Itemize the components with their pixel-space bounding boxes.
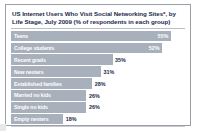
- bar-row: Empty nesters18%: [11, 114, 185, 125]
- bar-category-label: Teens: [11, 33, 28, 39]
- bar-value-label: 55%: [158, 33, 169, 39]
- bar-value-label: 18%: [66, 116, 77, 122]
- chart-card: US Internet Users Who Visit Social Netwo…: [5, 4, 191, 126]
- bar-category-label: Married no kids: [11, 92, 51, 98]
- bar-value-label: 26%: [89, 93, 100, 99]
- bar-category-label: New nesters: [11, 69, 43, 75]
- bar-category-label: College students: [11, 45, 54, 51]
- bar-row: Married no kids26%: [11, 90, 185, 101]
- bar-chart-plot: Teens55%College students52%Recent grads3…: [11, 31, 185, 125]
- bar-row: Teens55%: [11, 31, 185, 42]
- page-edge-shadow: [0, 124, 6, 131]
- bar-category-label: Empty nesters: [11, 116, 48, 122]
- bar-row: College students52%: [11, 43, 185, 54]
- bar-value-label: 31%: [103, 69, 114, 75]
- chart-title: US Internet Users Who Visit Social Netwo…: [11, 10, 185, 25]
- bar-value-label: 28%: [95, 81, 106, 87]
- bar-row: Single no kids26%: [11, 102, 185, 113]
- bar-value-label: 35%: [115, 57, 126, 63]
- bar-value-label: 26%: [89, 104, 100, 110]
- bar-row: Recent grads35%: [11, 54, 185, 65]
- bar-category-label: Established families: [11, 81, 62, 87]
- footer-divider: [11, 126, 185, 127]
- bar-row: Established families28%: [11, 78, 185, 89]
- bar-fill: [11, 31, 171, 42]
- bar-value-label: 52%: [149, 45, 160, 51]
- title-divider: [11, 28, 185, 29]
- bar-category-label: Single no kids: [11, 104, 48, 110]
- bar-category-label: Recent grads: [11, 57, 46, 63]
- bar-row: New nesters31%: [11, 66, 185, 77]
